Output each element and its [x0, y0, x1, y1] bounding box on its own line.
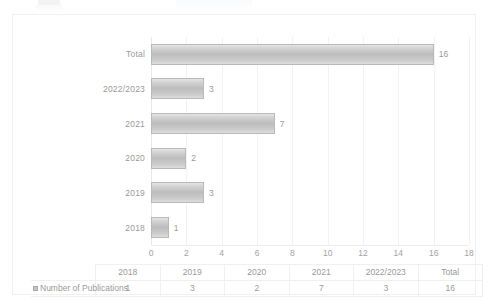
top-edge-artifacts	[0, 0, 492, 12]
category-axis-label: 2021	[125, 119, 145, 129]
x-axis-tick-label: 10	[323, 248, 332, 258]
data-table-column-header: 2018	[96, 265, 161, 281]
bar-value-label: 3	[209, 84, 214, 94]
x-axis-tick-label: 8	[290, 248, 295, 258]
bar-value-label: 16	[439, 49, 448, 59]
gridline	[469, 37, 470, 245]
data-table-column-header: 2019	[160, 265, 225, 281]
x-axis-tick-label: 18	[464, 248, 473, 258]
chart-data-table[interactable]: 2018 2019 2020 2021 2022/2023 Total Numb…	[31, 264, 483, 297]
category-axis-label: 2022/2023	[103, 84, 145, 94]
x-axis-tick-labels: 024681012141618	[151, 245, 469, 261]
category-axis-label: Total	[126, 49, 145, 59]
series-legend-cell[interactable]: Number of Publications	[31, 281, 96, 297]
plot-area: Total162022/2023320217202022019320181	[151, 37, 469, 245]
artifact-fragment	[176, 5, 252, 8]
data-table-cell: 16	[418, 281, 483, 297]
bar-value-label: 3	[209, 188, 214, 198]
data-table-column-header: 2020	[225, 265, 290, 281]
data-table-cell: 3	[160, 281, 225, 297]
chart-container[interactable]: Total162022/2023320217202022019320181 02…	[12, 14, 476, 295]
bar-row: 20181	[151, 210, 469, 245]
bar-value-label: 7	[280, 119, 285, 129]
x-axis-tick-label: 0	[149, 248, 154, 258]
data-table-cell: 3	[354, 281, 419, 297]
data-table-cell: 2	[225, 281, 290, 297]
bar[interactable]	[151, 217, 169, 238]
data-table-cell: 7	[289, 281, 354, 297]
data-table-header-row: 2018 2019 2020 2021 2022/2023 Total	[31, 265, 483, 281]
bar-row: 2022/20233	[151, 72, 469, 107]
bar-row: Total16	[151, 37, 469, 72]
category-axis-label: 2020	[125, 153, 145, 163]
x-axis-tick-label: 2	[184, 248, 189, 258]
bar-row: 20202	[151, 141, 469, 176]
category-axis-label: 2019	[125, 188, 145, 198]
data-table-column-header: Total	[418, 265, 483, 281]
x-axis-tick-label: 6	[255, 248, 260, 258]
legend-swatch-icon	[33, 286, 38, 291]
x-axis-tick-label: 16	[429, 248, 438, 258]
x-axis-tick-label: 12	[358, 248, 367, 258]
bar-row: 20217	[151, 106, 469, 141]
bar-value-label: 1	[174, 223, 179, 233]
bar[interactable]	[151, 182, 204, 203]
bar[interactable]	[151, 44, 434, 65]
data-table-body: 2018 2019 2020 2021 2022/2023 Total Numb…	[31, 265, 483, 297]
bar[interactable]	[151, 113, 275, 134]
series-name-label: Number of Publications	[40, 283, 128, 293]
data-table-corner-cell	[31, 265, 96, 281]
data-table-column-header: 2022/2023	[354, 265, 419, 281]
bar[interactable]	[151, 148, 186, 169]
artifact-fragment	[36, 5, 62, 9]
x-axis-tick-label: 4	[219, 248, 224, 258]
data-table-row: Number of Publications 1 3 2 7 3 16	[31, 281, 483, 297]
data-table-column-header: 2021	[289, 265, 354, 281]
bar-row: 20193	[151, 176, 469, 211]
x-axis-tick-label: 14	[394, 248, 403, 258]
bar-value-label: 2	[191, 153, 196, 163]
bar[interactable]	[151, 78, 204, 99]
category-axis-label: 2018	[125, 223, 145, 233]
